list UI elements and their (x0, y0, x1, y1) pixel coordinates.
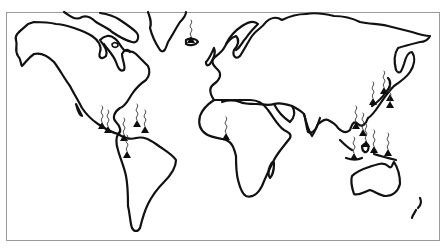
smoke-plume-icon (365, 124, 367, 140)
smoke-plume-icon (353, 137, 355, 153)
great-lakes-outline (112, 43, 118, 48)
volcano-icon (369, 82, 377, 105)
africa-outline (199, 100, 290, 197)
volcano-triangle-icon (133, 120, 141, 127)
volcano-markers (98, 20, 394, 160)
volcano-triangle-icon (141, 126, 149, 133)
volcano-triangle-icon (362, 140, 370, 147)
smoke-plume-icon (372, 82, 374, 98)
arabia-outline (274, 104, 294, 122)
volcano-triangle-icon (123, 151, 131, 158)
smoke-plume-icon (387, 133, 389, 149)
south-america-outline (117, 134, 177, 231)
australia-outline (351, 162, 400, 196)
world-map (0, 0, 445, 249)
smoke-plume-icon (101, 106, 103, 122)
volcano-triangle-icon (370, 146, 378, 153)
madagascar-outline (269, 162, 275, 178)
smoke-plume-icon (373, 130, 375, 146)
smoke-plume-icon (144, 110, 146, 126)
volcano-icon (384, 133, 392, 156)
volcano-triangle-icon (222, 133, 230, 140)
smoke-plume-icon (123, 118, 125, 134)
volcano-icon (141, 110, 149, 133)
north-america-outline (16, 22, 150, 134)
asia-outline (222, 13, 430, 132)
smoke-plume-icon (107, 110, 109, 126)
smoke-plume-icon (190, 20, 192, 36)
smoke-plume-icon (225, 117, 227, 133)
hudson-bay-outline (104, 44, 130, 71)
smoke-plume-icon (355, 106, 357, 122)
smoke-plume-icon (383, 71, 385, 87)
volcano-icon (370, 130, 378, 153)
greenland-outline (148, 12, 186, 51)
volcano-triangle-icon (384, 149, 392, 156)
volcano-icon (222, 117, 230, 140)
europe-outline (210, 14, 306, 100)
new-zealand-outline (412, 198, 421, 218)
volcano-triangle-icon (350, 153, 358, 160)
smoke-plume-icon (362, 113, 364, 129)
volcano-triangle-icon (359, 129, 367, 136)
smoke-plume-icon (136, 104, 138, 120)
volcano-icon (133, 104, 141, 127)
volcano-triangle-icon (369, 98, 377, 105)
volcano-triangle-icon (386, 101, 394, 108)
